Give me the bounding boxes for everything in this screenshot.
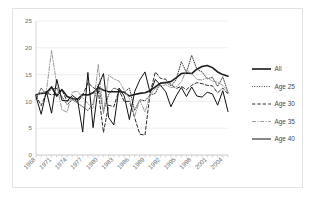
y-tick-label: 10 bbox=[25, 98, 32, 105]
legend-label-age-40: Age 40 bbox=[275, 135, 296, 143]
legend-label-age-30: Age 30 bbox=[275, 100, 296, 108]
y-tick-label: 20 bbox=[25, 44, 32, 51]
x-tick-label: 1971 bbox=[38, 155, 53, 170]
x-tick-label: 1980 bbox=[84, 155, 99, 170]
legend-label-age-35: Age 35 bbox=[275, 118, 296, 126]
data-series-group bbox=[36, 50, 228, 135]
y-tick-label: 15 bbox=[25, 71, 32, 78]
x-tick-label: 2001 bbox=[193, 155, 208, 170]
axes bbox=[36, 21, 228, 155]
line-chart: 0510152025 19681971197419771980198319861… bbox=[0, 0, 319, 201]
x-tick-label: 1998 bbox=[178, 155, 193, 170]
x-tick-label: 1983 bbox=[100, 155, 115, 170]
legend-label-all: All bbox=[275, 65, 282, 72]
x-tick-label: 1992 bbox=[147, 155, 162, 170]
x-tick-label: 1989 bbox=[131, 155, 146, 170]
gridlines bbox=[36, 21, 228, 155]
x-tick-label: 1977 bbox=[69, 155, 84, 170]
x-tick-label: 1986 bbox=[115, 155, 130, 170]
series-line-age-40 bbox=[36, 72, 228, 132]
y-tick-label: 25 bbox=[25, 17, 32, 24]
x-tick-label: 1968 bbox=[22, 155, 37, 170]
x-tick-label: 1974 bbox=[53, 155, 68, 170]
y-axis-tick-labels: 0510152025 bbox=[25, 17, 32, 158]
y-tick-label: 5 bbox=[29, 124, 33, 131]
x-axis-tick-labels: 1968197119741977198019831986198919921995… bbox=[22, 155, 224, 170]
x-tick-label: 1995 bbox=[162, 155, 177, 170]
chart-legend: AllAge 25Age 30Age 35Age 40 bbox=[252, 65, 295, 143]
x-tick-label: 2004 bbox=[209, 155, 224, 170]
legend-label-age-25: Age 25 bbox=[275, 83, 296, 91]
